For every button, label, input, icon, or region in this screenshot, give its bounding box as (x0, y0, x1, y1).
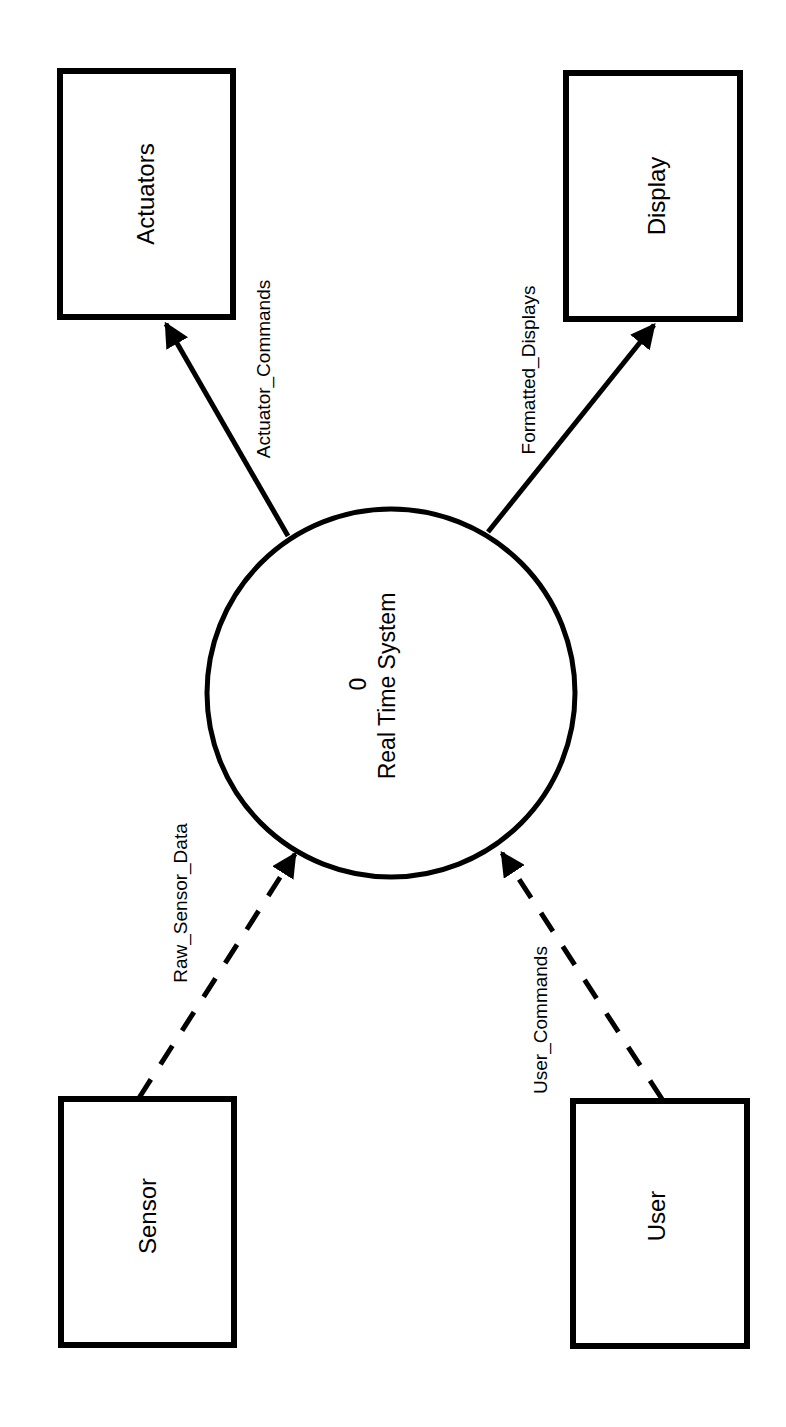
entity-sensor-label: Sensor (136, 1178, 160, 1254)
entity-user-label: User (645, 1191, 669, 1242)
flow-formatted-displays-line[interactable] (488, 325, 654, 532)
flow-raw-sensor-data-line[interactable] (139, 854, 295, 1098)
flow-user-commands-label: User_Commands (531, 944, 550, 1096)
flow-actuator-commands-label: Actuator_Commands (254, 278, 273, 460)
flow-raw-sensor-data-label: Raw_Sensor_Data (171, 821, 190, 984)
flow-formatted-displays-label: Formatted_Displays (519, 284, 538, 457)
diagram-canvas: Actuators Display Sensor User 0 Real Tim… (0, 0, 786, 1427)
entity-display-label: Display (645, 157, 669, 236)
process-name: Real Time System (376, 593, 399, 780)
flow-user-commands-line[interactable] (502, 853, 662, 1099)
process-number: 0 (347, 678, 370, 691)
entity-actuators-label: Actuators (134, 143, 158, 244)
